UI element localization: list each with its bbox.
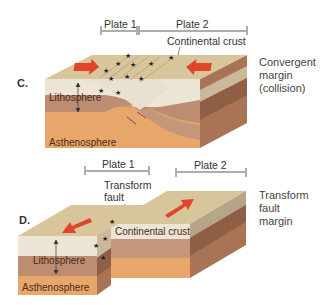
asthenosphere-label: Asthenosphere (22, 282, 90, 293)
transform-fault-label-line2: fault (104, 191, 124, 203)
margin-type-line3: margin (259, 215, 293, 227)
svg-text:★: ★ (130, 61, 136, 69)
svg-text:★: ★ (102, 235, 108, 243)
continental-crust-label: Continental crust (167, 35, 246, 47)
margin-type-line2: fault (259, 202, 280, 214)
panel-letter-d: D. (19, 214, 30, 226)
svg-text:★: ★ (148, 60, 154, 68)
margin-type-line2: margin (259, 69, 293, 81)
panel-c: Plate 1 Plate 2 Continental crust ★★★ ★★… (17, 18, 316, 148)
svg-text:★: ★ (115, 89, 121, 97)
plate-2-label: Plate 2 (176, 18, 209, 30)
transform-fault-label-line1: Transform (104, 179, 152, 191)
svg-text:★: ★ (93, 242, 99, 250)
asthenosphere-label: Asthenosphere (49, 137, 117, 148)
svg-text:★: ★ (100, 254, 106, 262)
continental-crust-layer (18, 236, 97, 256)
lithosphere-label: Lithosphere (49, 92, 102, 103)
margin-type-line1: Convergent (259, 56, 316, 68)
lithosphere-label: Lithosphere (33, 255, 86, 266)
plate-1-label: Plate 1 (102, 158, 135, 170)
svg-text:★: ★ (168, 54, 174, 62)
svg-text:★: ★ (115, 60, 121, 68)
margin-type-line3: (collision) (259, 82, 305, 94)
plate-1-label: Plate 1 (104, 18, 137, 30)
svg-text:★: ★ (109, 218, 115, 226)
panel-letter-c: C. (17, 77, 28, 89)
continental-crust-label: Continental crust (115, 226, 190, 237)
svg-text:★: ★ (103, 67, 109, 75)
svg-text:★: ★ (108, 75, 114, 83)
plate-2-label: Plate 2 (194, 159, 227, 171)
svg-text:★: ★ (125, 52, 131, 60)
svg-text:★: ★ (138, 75, 144, 83)
panel-d: Plate 1 Plate 2 Transform fault ★★ ★★ (18, 158, 309, 295)
margin-type-line1: Transform (259, 189, 309, 201)
plate-margins-diagram: Plate 1 Plate 2 Continental crust ★★★ ★★… (0, 0, 329, 305)
svg-text:★: ★ (124, 73, 130, 81)
